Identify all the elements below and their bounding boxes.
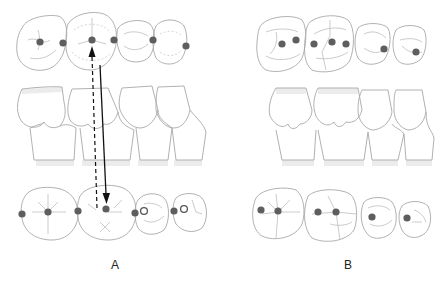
contact-dot bbox=[102, 205, 109, 212]
dashed-arrow-shaft bbox=[92, 56, 97, 208]
contact-dot bbox=[131, 209, 138, 216]
contact-dot bbox=[182, 42, 189, 49]
contact-dot bbox=[110, 36, 117, 43]
panel-a-label: A bbox=[111, 258, 119, 272]
panel-b-lower-occlusal-row bbox=[253, 188, 431, 241]
contact-dot bbox=[403, 214, 410, 221]
solid-arrow-shaft bbox=[100, 65, 106, 194]
solid-arrow-head-down-icon bbox=[103, 193, 111, 204]
panel-b-contact-points bbox=[257, 36, 419, 221]
open-circle-marker bbox=[141, 208, 148, 215]
upper-buccal-premolar-2 bbox=[358, 90, 392, 130]
contact-dot bbox=[292, 36, 299, 43]
contact-dot bbox=[257, 206, 264, 213]
panel-b-buccal-teeth bbox=[269, 88, 434, 166]
panel-a-buccal-teeth bbox=[18, 86, 207, 166]
contact-dot bbox=[342, 40, 349, 47]
lower-buccal-molar-1 bbox=[276, 130, 316, 160]
panel-b bbox=[253, 16, 434, 242]
lower-buccal-molar-2 bbox=[318, 130, 368, 160]
contact-dot bbox=[314, 208, 321, 215]
upper-premolar-2 bbox=[117, 21, 155, 62]
lower-premolar-2 bbox=[135, 194, 169, 235]
lower-premolar-2 bbox=[361, 198, 396, 239]
contact-dot bbox=[18, 210, 25, 217]
contact-dot bbox=[278, 40, 285, 47]
lower-buccal-premolar-1 bbox=[136, 110, 172, 160]
upper-buccal-premolar-1 bbox=[394, 90, 426, 130]
contact-dot bbox=[44, 208, 51, 215]
contact-dot bbox=[380, 45, 387, 52]
upper-buccal-premolar-2 bbox=[119, 86, 158, 128]
contact-dot bbox=[368, 213, 375, 220]
upper-premolar-1 bbox=[393, 26, 426, 65]
contact-dot bbox=[170, 207, 177, 214]
contact-dot bbox=[332, 208, 339, 215]
contact-dot bbox=[310, 40, 317, 47]
open-circle-marker bbox=[181, 206, 188, 213]
contact-dot bbox=[274, 207, 281, 214]
contact-dot bbox=[328, 38, 335, 45]
dashed-arrow-head-up-icon bbox=[89, 46, 96, 57]
lower-premolar-1 bbox=[173, 194, 207, 232]
contact-dot bbox=[74, 207, 81, 214]
upper-buccal-molar-2 bbox=[269, 88, 312, 129]
panel-b-label: B bbox=[344, 258, 352, 272]
lower-buccal-premolar-2 bbox=[404, 112, 434, 160]
lower-buccal-premolar-1 bbox=[368, 124, 404, 160]
contact-dot bbox=[59, 39, 66, 46]
upper-premolar-1 bbox=[153, 20, 187, 64]
dental-occlusion-diagram bbox=[0, 0, 446, 281]
lower-buccal-premolar-2 bbox=[172, 110, 206, 160]
lower-buccal-molar-2 bbox=[80, 112, 134, 160]
panel-a bbox=[17, 12, 207, 240]
upper-buccal-premolar-1 bbox=[156, 86, 190, 128]
contact-dot bbox=[88, 36, 95, 43]
contact-dot bbox=[36, 38, 43, 45]
contact-dot bbox=[149, 36, 156, 43]
contact-dot bbox=[412, 48, 419, 55]
lower-molar-1 bbox=[305, 190, 357, 242]
upper-premolar-2 bbox=[355, 24, 390, 65]
